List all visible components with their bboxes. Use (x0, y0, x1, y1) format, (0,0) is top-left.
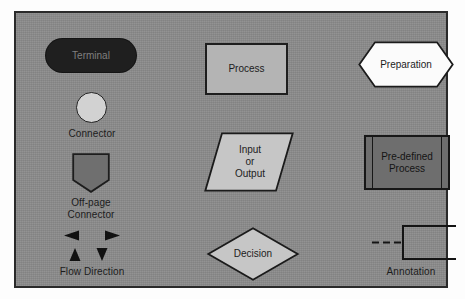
annotation-symbol (371, 224, 457, 261)
off-page-connector-icon (72, 153, 110, 193)
flowchart-symbols-panel: Terminal Connector Off-page Connector (14, 11, 448, 288)
flow-direction-symbol (62, 229, 122, 263)
terminal-symbol: Terminal (46, 39, 136, 72)
arrow-left-icon (64, 231, 79, 241)
decision-diamond-icon (207, 227, 299, 281)
annotation-caption: Annotation (361, 266, 461, 278)
decision-symbol: Decision (207, 227, 299, 281)
preparation-hexagon-icon (358, 41, 454, 88)
input-output-parallelogram-icon (204, 132, 294, 192)
off-page-connector-symbol (72, 153, 110, 193)
arrow-down-icon (97, 248, 108, 261)
predefined-process-label: Pre-defined Process (366, 137, 448, 188)
arrow-up-icon (70, 248, 81, 261)
input-output-symbol: Input or Output (204, 132, 294, 192)
arrow-right-icon (105, 231, 120, 241)
flow-direction-caption: Flow Direction (36, 266, 148, 278)
predefined-process-symbol: Pre-defined Process (364, 135, 450, 190)
terminal-label: Terminal (46, 39, 136, 72)
preparation-symbol: Preparation (358, 41, 454, 88)
connector-caption: Connector (42, 128, 142, 140)
process-symbol: Process (205, 43, 288, 95)
annotation-bracket-icon (371, 224, 457, 261)
predefined-process-left-bar (372, 137, 373, 188)
flow-direction-arrows-icon (62, 229, 122, 263)
connector-symbol (76, 92, 107, 123)
annotation-bracket (403, 226, 456, 259)
process-label: Process (207, 45, 286, 93)
off-page-connector-caption: Off-page Connector (41, 197, 141, 220)
predefined-process-right-bar (441, 137, 442, 188)
figure-canvas: Terminal Connector Off-page Connector (0, 0, 465, 299)
